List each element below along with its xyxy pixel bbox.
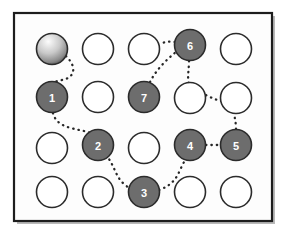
empty-node-r4c5[interactable] [221, 177, 252, 208]
visited-node-6[interactable]: 6 [175, 30, 206, 61]
empty-node-r1c2[interactable] [83, 34, 114, 65]
node-circle [221, 130, 252, 161]
visited-node-7[interactable]: 7 [129, 82, 160, 113]
grid-path-diagram: 6172453 [0, 0, 286, 236]
empty-node-r4c1[interactable] [37, 177, 68, 208]
node-circle [129, 177, 160, 208]
visited-node-4[interactable]: 4 [175, 130, 206, 161]
diagram-canvas: 6172453 [0, 0, 286, 236]
node-circle [129, 34, 160, 65]
empty-node-r2c5[interactable] [221, 83, 252, 114]
empty-node-r4c2[interactable] [83, 177, 114, 208]
empty-node-r2c4[interactable] [175, 83, 206, 114]
visited-node-3[interactable]: 3 [129, 177, 160, 208]
node-circle [83, 177, 114, 208]
node-circle [83, 82, 114, 113]
node-circle [175, 177, 206, 208]
node-circle [37, 133, 68, 164]
node-circle [175, 30, 206, 61]
node-circle [175, 130, 206, 161]
visited-node-5[interactable]: 5 [221, 130, 252, 161]
node-circle [37, 177, 68, 208]
node-circle [129, 82, 160, 113]
node-circle [175, 83, 206, 114]
empty-node-r4c4[interactable] [175, 177, 206, 208]
node-circle [37, 82, 68, 113]
node-circle [221, 177, 252, 208]
start-node[interactable] [37, 34, 68, 65]
empty-node-r3c3[interactable] [129, 133, 160, 164]
node-circle [221, 34, 252, 65]
empty-node-r1c3[interactable] [129, 34, 160, 65]
node-circle [37, 34, 68, 65]
empty-node-r1c5[interactable] [221, 34, 252, 65]
empty-node-r3c1[interactable] [37, 133, 68, 164]
empty-node-r2c2[interactable] [83, 82, 114, 113]
visited-node-2[interactable]: 2 [83, 130, 114, 161]
visited-node-1[interactable]: 1 [37, 82, 68, 113]
node-circle [221, 83, 252, 114]
node-circle [83, 130, 114, 161]
node-circle [129, 133, 160, 164]
node-circle [83, 34, 114, 65]
